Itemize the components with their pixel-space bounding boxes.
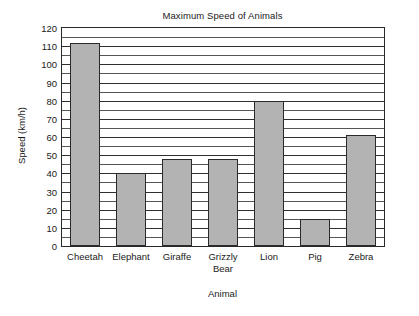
y-tick-label: 50 [17,150,57,161]
gridline-minor [62,146,384,147]
bar [300,219,329,246]
y-tick-label: 80 [17,95,57,106]
gridline-minor [62,92,384,93]
y-tick-label: 40 [17,168,57,179]
x-tick-label-line: Lion [246,251,292,263]
gridline-major [62,83,384,84]
x-tick-label: Pig [292,251,338,263]
y-tick-label: 60 [17,132,57,143]
x-axis-title: Animal [60,288,385,299]
y-tick-label: 70 [17,113,57,124]
gridline-minor [62,73,384,74]
bar [208,159,237,246]
x-tick-label: Giraffe [154,251,200,263]
y-tick-label: 30 [17,186,57,197]
gridline-minor [62,55,384,56]
x-tick-label-line: Bear [200,263,246,275]
x-tick-label: Zebra [338,251,384,263]
x-tick-label: Elephant [108,251,154,263]
gridline-major [62,64,384,65]
x-tick-label-line: Giraffe [154,251,200,263]
gridline-major [62,119,384,120]
x-tick-label-line: Cheetah [62,251,108,263]
x-tick-label: Cheetah [62,251,108,263]
y-tick-label: 90 [17,77,57,88]
bar-chart-figure: Maximum Speed of Animals Speed (km/h) 01… [0,0,419,316]
chart-title: Maximum Speed of Animals [60,10,385,21]
bar [116,173,145,246]
y-tick-label: 10 [17,222,57,233]
y-tick-label: 120 [17,23,57,34]
gridline-major [62,155,384,156]
x-tick-label-line: Pig [292,251,338,263]
plot-inner: 0102030405060708090100110120 [62,28,384,246]
x-tick-label: GrizzlyBear [200,251,246,274]
gridline-major [62,46,384,47]
gridline-major [62,137,384,138]
y-tick-label: 100 [17,59,57,70]
bar [346,135,375,246]
gridline-minor [62,128,384,129]
plot-area: 0102030405060708090100110120 [61,27,385,247]
gridline-minor [62,110,384,111]
bar [70,43,99,246]
y-tick-label: 20 [17,204,57,215]
bar [162,159,191,246]
gridline-minor [62,37,384,38]
x-tick-label-line: Grizzly [200,251,246,263]
x-tick-label: Lion [246,251,292,263]
gridline-major [62,101,384,102]
x-tick-label-line: Elephant [108,251,154,263]
y-tick-label: 0 [17,241,57,252]
bar [254,101,283,246]
x-tick-label-line: Zebra [338,251,384,263]
y-tick-label: 110 [17,41,57,52]
